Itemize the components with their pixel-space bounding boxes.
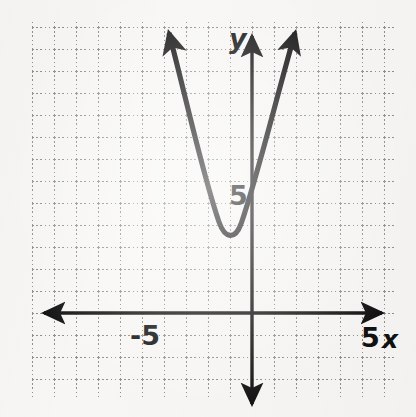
graph-figure: y x -5 5 5 (0, 0, 416, 417)
x-tick-label-positive-5: 5 (361, 322, 380, 353)
x-axis-label: x (380, 325, 399, 354)
y-tick-label-positive-5: 5 (229, 180, 248, 211)
x-tick-label-negative-5: -5 (130, 320, 160, 351)
coordinate-plane-svg: y x -5 5 5 (0, 0, 416, 417)
y-axis-label: y (229, 23, 248, 54)
